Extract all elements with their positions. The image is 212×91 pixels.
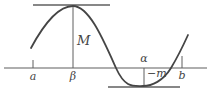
label-a: a — [30, 70, 37, 83]
diagram-canvas: a β M α −m b — [0, 0, 212, 91]
label-min-value-minus-m: −m — [147, 67, 167, 80]
label-alpha: α — [140, 52, 148, 65]
label-b: b — [178, 69, 185, 82]
label-beta: β — [69, 70, 76, 83]
function-extrema-diagram: a β M α −m b — [0, 0, 212, 91]
label-max-value-M: M — [76, 33, 91, 48]
